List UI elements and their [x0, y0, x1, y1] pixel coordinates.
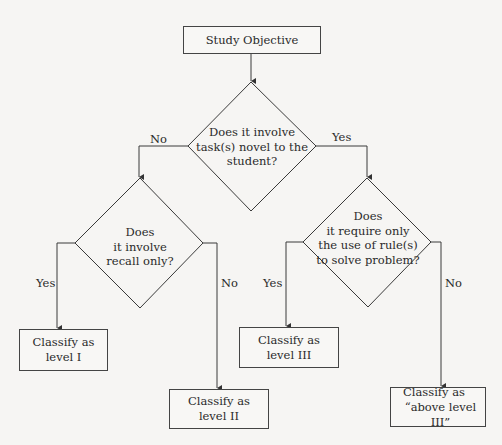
outcome-above-level-3-line-2: “above level III” [396, 400, 485, 430]
decision-recall-line-3: recall only? [106, 254, 173, 269]
decision-recall-line-1: Does [106, 225, 173, 240]
outcome-box-above-level-3: Classify as “above level III” [390, 387, 486, 427]
outcome-box-level-1: Classify as level I [19, 329, 108, 371]
edge-label-recall-no: No [221, 276, 238, 290]
decision-rules-line-2: it require only [316, 224, 419, 239]
start-box-study-objective: Study Objective [183, 26, 321, 54]
outcome-level-3-line-2: level III [267, 348, 312, 363]
edge-rules-no [431, 242, 441, 386]
outcome-level-3-line-1: Classify as [258, 333, 320, 348]
decision-rules-line-1: Does [316, 209, 419, 224]
outcome-level-2-line-2: level II [199, 409, 239, 424]
decision-text-recall: Does it involve recall only? [106, 225, 173, 269]
decision-novel-line-1: Does it involve [196, 125, 308, 140]
outcome-level-1-line-2: level I [46, 350, 82, 365]
edge-novel-yes [316, 146, 367, 177]
edge-label-rules-yes: Yes [263, 276, 282, 290]
edge-recall-no [203, 243, 217, 388]
outcome-above-level-3-line-1: Classify as [399, 385, 465, 400]
edge-novel-no [139, 146, 188, 177]
decision-novel-line-2: task(s) novel to the [196, 140, 308, 155]
connector-layer [0, 0, 502, 445]
decision-rules-line-4: to solve problem? [316, 253, 419, 268]
edge-rules-yes [286, 242, 303, 326]
outcome-box-level-3: Classify as level III [239, 327, 339, 368]
edge-label-recall-yes: Yes [36, 276, 55, 290]
decision-recall-line-2: it involve [106, 240, 173, 255]
outcome-box-level-2: Classify as level II [169, 389, 269, 429]
decision-rules-line-3: the use of rule(s) [316, 238, 419, 253]
edge-label-novel-no: No [150, 132, 167, 146]
edge-recall-yes [57, 243, 75, 328]
decision-text-novel: Does it involve task(s) novel to the stu… [196, 125, 308, 169]
start-label: Study Objective [206, 33, 299, 48]
decision-novel-line-3: student? [196, 154, 308, 169]
edge-label-novel-yes: Yes [332, 130, 351, 144]
flowchart: Study Objective Does it involve task(s) … [0, 0, 502, 445]
decision-text-rules: Does it require only the use of rule(s) … [316, 209, 419, 267]
outcome-level-2-line-1: Classify as [188, 394, 250, 409]
edge-label-rules-no: No [445, 276, 462, 290]
outcome-level-1-line-1: Classify as [33, 335, 95, 350]
